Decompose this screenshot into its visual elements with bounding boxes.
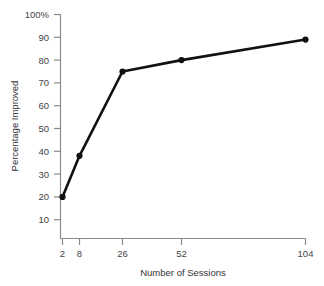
x-tick-label-2: 2	[60, 248, 65, 259]
data-point-2	[59, 194, 65, 200]
y-tick-label-100: 100%	[25, 9, 50, 20]
x-tick-label-52: 52	[176, 248, 187, 259]
y-tick-label-70: 70	[38, 77, 49, 88]
y-axis-title: Percentage Improved	[9, 81, 20, 172]
data-point-8	[76, 153, 82, 159]
y-tick-label-80: 80	[38, 55, 49, 66]
x-tick-label-26: 26	[117, 248, 128, 259]
data-point-52	[178, 57, 184, 63]
line-chart: 100% 90 80 70 60 50 40 30 20 10 2 8 26 5…	[0, 0, 324, 286]
chart-figure: 100% 90 80 70 60 50 40 30 20 10 2 8 26 5…	[0, 0, 324, 286]
x-axis-title: Number of Sessions	[140, 267, 226, 278]
y-tick-label-30: 30	[38, 169, 49, 180]
data-point-104	[302, 36, 308, 42]
y-tick-label-10: 10	[38, 214, 49, 225]
x-tick-label-8: 8	[77, 248, 82, 259]
y-tick-label-90: 90	[38, 32, 49, 43]
y-tick-label-50: 50	[38, 123, 49, 134]
data-point-26	[119, 68, 125, 74]
y-tick-label-40: 40	[38, 146, 49, 157]
x-tick-label-104: 104	[298, 248, 314, 259]
y-tick-label-60: 60	[38, 100, 49, 111]
y-tick-label-20: 20	[38, 191, 49, 202]
chart-background	[0, 0, 324, 286]
